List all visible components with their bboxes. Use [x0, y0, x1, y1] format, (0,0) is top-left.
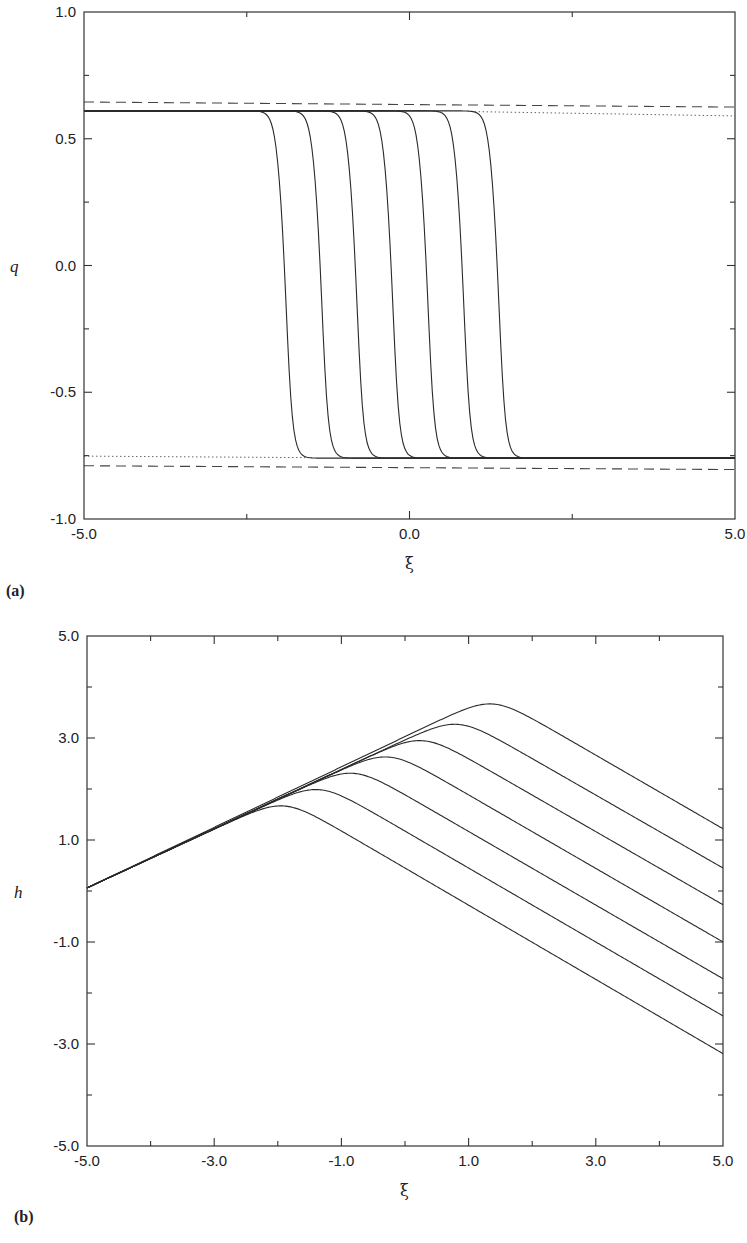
- q-profile-curve-6: [84, 111, 735, 458]
- x-tick-label: -1.0: [328, 1152, 354, 1169]
- q-profile-curve-3: [84, 111, 735, 458]
- x-tick-label: 1.0: [458, 1152, 479, 1169]
- y-tick-label: 0.0: [55, 257, 76, 274]
- y-tick-label: -1.0: [50, 510, 76, 527]
- panel-a-q-profiles: -5.00.05.0-1.0-0.50.00.51.0 q ξ (a): [6, 3, 745, 600]
- x-tick-label: -5.0: [71, 525, 97, 542]
- y-tick-label: -3.0: [53, 1035, 79, 1052]
- panel-a-x-axis-label: ξ: [405, 554, 414, 573]
- h-profile-curve-3: [87, 773, 723, 978]
- y-tick-label: 1.0: [55, 3, 76, 20]
- y-tick-label: 5.0: [58, 627, 79, 644]
- y-tick-label: -5.0: [53, 1137, 79, 1154]
- x-tick-label: 5.0: [725, 525, 746, 542]
- h-profile-curve-5: [87, 741, 723, 905]
- x-tick-label: -5.0: [74, 1152, 100, 1169]
- x-tick-label: -3.0: [201, 1152, 227, 1169]
- x-tick-label: 5.0: [713, 1152, 734, 1169]
- y-tick-label: 1.0: [58, 831, 79, 848]
- h-profile-curve-2: [87, 790, 723, 1016]
- h-profile-curve-6: [87, 724, 723, 888]
- panel-a-label: (a): [6, 582, 25, 600]
- q-profile-curve-1: [84, 111, 735, 458]
- lower-dotted-line: [84, 456, 312, 458]
- q-profile-curve-4: [84, 111, 735, 458]
- upper-dashed-line: [84, 102, 735, 107]
- q-profile-curve-7: [84, 111, 735, 458]
- panel-b-label: (b): [14, 1208, 34, 1226]
- panel-b-x-axis-label: ξ: [400, 1181, 409, 1200]
- upper-dotted-line: [475, 112, 735, 116]
- panel-a-ticks: [84, 12, 735, 519]
- y-tick-label: -1.0: [53, 933, 79, 950]
- panel-b-plot-area: [87, 704, 723, 1054]
- panel-a-plot-area: [84, 102, 735, 470]
- x-tick-label: 3.0: [585, 1152, 606, 1169]
- panel-a-frame: [84, 12, 735, 519]
- q-profile-curve-5: [84, 111, 735, 458]
- x-tick-label: 0.0: [399, 525, 420, 542]
- panel-b-frame: [87, 636, 723, 1146]
- figure: -5.00.05.0-1.0-0.50.00.51.0 q ξ (a) -5.0…: [0, 0, 747, 1243]
- y-tick-label: 0.5: [55, 130, 76, 147]
- lower-dashed-line: [84, 466, 735, 470]
- y-tick-label: 3.0: [58, 729, 79, 746]
- panel-a-tick-labels: -5.00.05.0-1.0-0.50.00.51.0: [50, 3, 745, 542]
- panel-b-h-profiles: -5.0-3.0-1.01.03.05.0-5.0-3.0-1.01.03.05…: [14, 627, 733, 1226]
- panel-b-y-axis-label: h: [14, 883, 23, 902]
- panel-a-y-axis-label: q: [10, 257, 19, 276]
- q-profile-curve-2: [84, 111, 735, 458]
- y-tick-label: -0.5: [50, 383, 76, 400]
- panel-b-ticks: [87, 636, 723, 1146]
- h-profile-curve-7: [87, 704, 723, 888]
- panel-b-tick-labels: -5.0-3.0-1.01.03.05.0-5.0-3.0-1.01.03.05…: [53, 627, 733, 1169]
